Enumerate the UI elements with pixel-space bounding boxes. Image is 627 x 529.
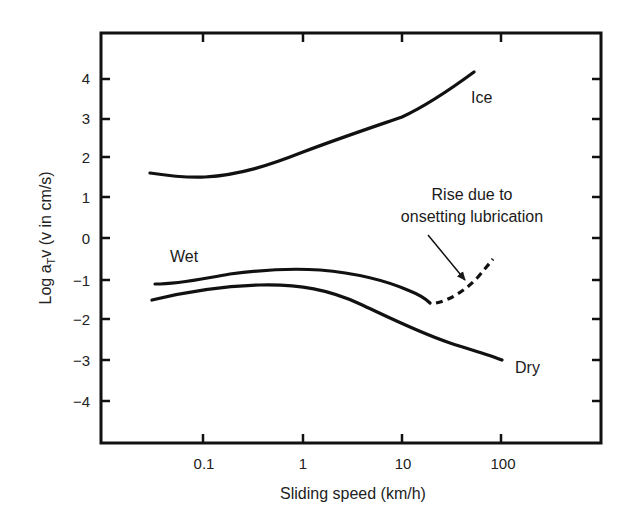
y-axis-title-prefix: Log bbox=[37, 273, 54, 304]
y-axis-title: Log aTv (v in cm/s) bbox=[37, 172, 57, 305]
x-tick-label: 1 bbox=[299, 455, 307, 472]
y-axis-title-suffix: (v in cm/s) bbox=[37, 172, 54, 250]
x-tick-label: 10 bbox=[395, 455, 412, 472]
y-tick-label: −2 bbox=[73, 311, 90, 328]
dry-curve bbox=[152, 285, 502, 360]
y-axis-title-v: v bbox=[37, 250, 54, 258]
y-tick-label: 0 bbox=[82, 230, 90, 247]
annotation-arrow bbox=[428, 235, 465, 280]
ice-curve bbox=[150, 72, 474, 177]
dry-label: Dry bbox=[515, 359, 540, 376]
annotation-line-2: onsetting lubrication bbox=[401, 208, 543, 225]
y-tick-label: 1 bbox=[82, 189, 90, 206]
x-tick-label: 0.1 bbox=[194, 455, 215, 472]
chart: 4 3 2 1 0 −1 −2 −3 −4 0.1 1 10 100 Slidi… bbox=[0, 0, 627, 529]
x-tick-labels: 0.1 1 10 100 bbox=[194, 455, 516, 472]
y-tick-label: 2 bbox=[82, 149, 90, 166]
y-tick-label: −3 bbox=[73, 352, 90, 369]
y-tick-label: −4 bbox=[73, 393, 90, 410]
y-axis-title-a: a bbox=[37, 264, 54, 273]
wet-lubrication-dashed-curve bbox=[436, 259, 493, 303]
y-tick-label: 4 bbox=[82, 70, 90, 87]
plot-frame bbox=[101, 33, 601, 443]
y-tick-labels: 4 3 2 1 0 −1 −2 −3 −4 bbox=[73, 70, 90, 410]
annotation-line-1: Rise due to bbox=[432, 186, 513, 203]
y-tick-label: −1 bbox=[73, 272, 90, 289]
x-axis-title: Sliding speed (km/h) bbox=[280, 485, 426, 502]
wet-label: Wet bbox=[170, 248, 199, 265]
ice-label: Ice bbox=[471, 89, 492, 106]
x-tick-label: 100 bbox=[490, 455, 515, 472]
y-tick-label: 3 bbox=[82, 110, 90, 127]
